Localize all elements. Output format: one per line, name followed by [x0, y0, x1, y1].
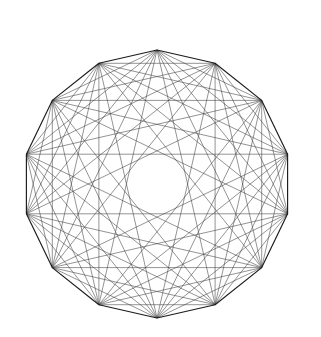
complete-graph-figure	[0, 0, 321, 337]
figure-canvas	[0, 0, 321, 337]
